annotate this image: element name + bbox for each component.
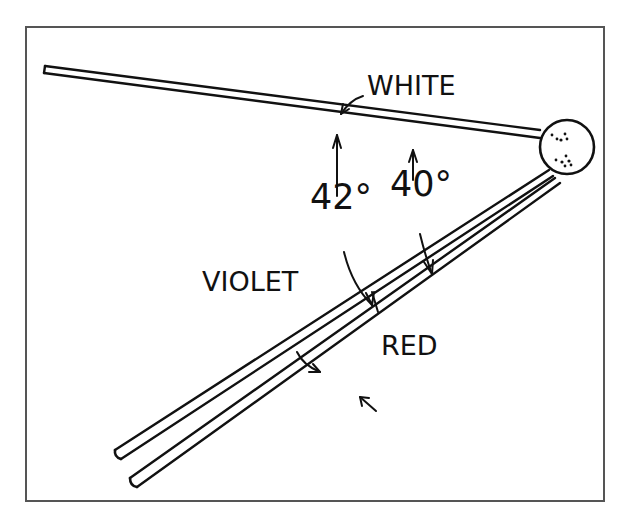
red-pointer-arrow-icon — [360, 397, 376, 411]
label-angle-42: 42° — [310, 177, 372, 217]
rainbow-diagram: WHITE 42° 40° VIOLET RED — [0, 0, 620, 528]
label-violet: VIOLET — [202, 266, 299, 297]
label-white: WHITE — [367, 70, 456, 101]
white-ray — [44, 66, 540, 138]
red-ray — [130, 178, 560, 487]
raindrop-icon — [540, 120, 594, 174]
label-angle-40: 40° — [390, 164, 452, 204]
label-red: RED — [381, 330, 438, 361]
